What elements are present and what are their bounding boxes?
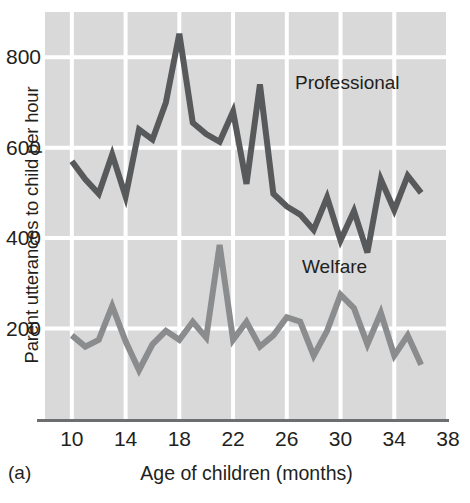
x-tick-label: 22 [221,427,244,451]
x-tick-label: 26 [275,427,298,451]
y-tick-label: 400 [6,226,41,250]
x-axis-line [37,419,449,422]
x-tick-label: 38 [436,427,459,451]
figure-panel-a: Parent utterances to child per hour 2004… [0,0,470,503]
x-tick-label: 18 [168,427,191,451]
y-tick-label: 800 [6,45,41,69]
series-label-welfare: Welfare [302,256,367,278]
series-label-professional: Professional [295,72,400,94]
y-axis-title: Parent utterances to child per hour [21,25,43,425]
panel-identifier: (a) [8,462,31,484]
y-tick-label: 600 [6,136,41,160]
x-tick-label: 34 [383,427,406,451]
x-axis-title: Age of children (months) [45,462,448,485]
x-tick-label: 30 [329,427,352,451]
x-tick-label: 14 [114,427,137,451]
x-tick-label: 10 [60,427,83,451]
y-tick-label: 200 [6,317,41,341]
